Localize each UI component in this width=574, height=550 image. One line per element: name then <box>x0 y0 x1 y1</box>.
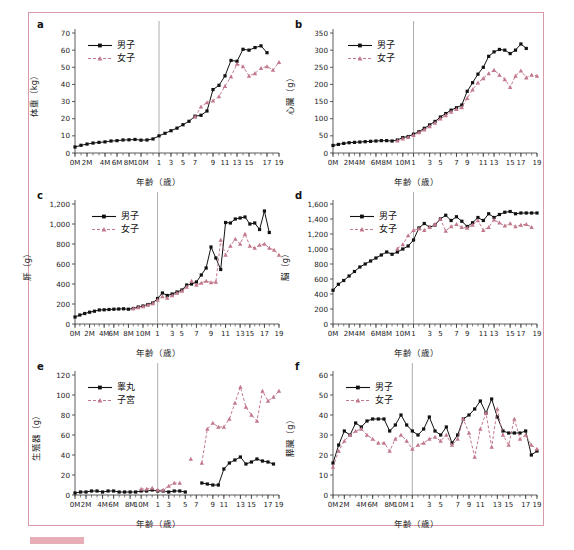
svg-text:10M: 10M <box>395 330 410 338</box>
svg-text:80: 80 <box>61 411 71 420</box>
svg-text:0M: 0M <box>328 159 339 167</box>
svg-text:3: 3 <box>166 501 170 509</box>
svg-text:5: 5 <box>181 159 185 167</box>
svg-text:800: 800 <box>314 260 328 269</box>
panel-c: c 肝（g） 02004006008001,0001,2000M2M4M6M8M… <box>29 188 287 359</box>
bottom-color-tag <box>30 537 84 544</box>
svg-text:60: 60 <box>61 46 71 55</box>
svg-text:15: 15 <box>506 330 515 338</box>
svg-text:10M: 10M <box>395 159 410 167</box>
panel-c-legend: 男子女子 <box>91 210 139 236</box>
svg-text:13: 13 <box>236 330 245 338</box>
legend-label: 女子 <box>117 53 135 64</box>
svg-text:6M: 6M <box>371 159 382 167</box>
legend-square-marker-icon <box>87 382 113 393</box>
legend-label: 子宮 <box>117 395 135 406</box>
panel-a: a 体重（kg） 0102030405060700M2M4M6M8M10M135… <box>29 17 287 188</box>
svg-text:7: 7 <box>194 330 198 338</box>
svg-text:3: 3 <box>427 330 431 338</box>
legend-label: 男子 <box>375 382 393 393</box>
legend-label: 男子 <box>121 211 139 222</box>
svg-text:9: 9 <box>211 501 215 509</box>
svg-text:2M: 2M <box>81 501 92 509</box>
panel-e-xlabel: 年齢（歳） <box>29 517 287 529</box>
svg-text:2M: 2M <box>344 159 355 167</box>
svg-text:40: 40 <box>61 451 71 460</box>
svg-text:10M: 10M <box>136 330 151 338</box>
svg-text:4M: 4M <box>356 501 367 509</box>
legend-entry: 女子 <box>91 223 139 236</box>
svg-text:350: 350 <box>314 29 328 38</box>
svg-text:1: 1 <box>155 330 159 338</box>
svg-text:0M: 0M <box>328 501 339 509</box>
svg-text:17: 17 <box>264 501 273 509</box>
svg-text:0: 0 <box>323 491 328 500</box>
legend-triangle-marker-icon <box>349 224 375 235</box>
svg-text:40: 40 <box>319 411 329 420</box>
legend-triangle-marker-icon <box>87 395 113 406</box>
panel-f: f 膵臓（g） 01020304050600M2M4M6M8M10M135791… <box>287 359 545 530</box>
legend-entry: 睾丸 <box>87 381 135 394</box>
svg-text:70: 70 <box>61 29 71 38</box>
svg-text:150: 150 <box>314 97 328 106</box>
legend-label: 女子 <box>379 224 397 235</box>
svg-text:19: 19 <box>275 330 284 338</box>
svg-text:200: 200 <box>314 305 328 314</box>
svg-text:30: 30 <box>61 97 71 106</box>
svg-text:5: 5 <box>438 330 442 338</box>
svg-text:7: 7 <box>454 159 458 167</box>
legend-entry: 女子 <box>349 223 397 236</box>
panel-e-plot: 0204060801001200M2M4M6M8M10M135791113151… <box>29 359 287 530</box>
svg-text:3: 3 <box>427 501 431 509</box>
svg-text:17: 17 <box>516 330 525 338</box>
svg-text:19: 19 <box>533 501 542 509</box>
svg-text:0M: 0M <box>70 159 81 167</box>
svg-text:200: 200 <box>56 300 70 309</box>
svg-text:10M: 10M <box>134 501 149 509</box>
svg-text:11: 11 <box>219 501 228 509</box>
svg-text:19: 19 <box>275 501 284 509</box>
svg-text:8M: 8M <box>381 159 392 167</box>
svg-text:19: 19 <box>275 159 284 167</box>
svg-text:4M: 4M <box>355 159 366 167</box>
svg-text:13: 13 <box>236 501 245 509</box>
panel-b-legend: 男子女子 <box>347 39 395 65</box>
svg-text:250: 250 <box>314 63 328 72</box>
svg-text:100: 100 <box>314 114 328 123</box>
svg-text:4M: 4M <box>355 330 366 338</box>
svg-text:11: 11 <box>479 330 488 338</box>
svg-text:20: 20 <box>319 451 329 460</box>
panel-f-xlabel: 年齢（歳） <box>287 517 545 529</box>
svg-text:20: 20 <box>61 114 71 123</box>
svg-text:50: 50 <box>61 63 71 72</box>
svg-text:0M: 0M <box>70 330 81 338</box>
svg-text:17: 17 <box>516 159 525 167</box>
svg-text:10: 10 <box>61 131 71 140</box>
svg-text:10: 10 <box>319 471 329 480</box>
svg-text:40: 40 <box>61 80 71 89</box>
panel-e-legend: 睾丸子宮 <box>87 381 135 407</box>
legend-square-marker-icon <box>347 40 373 51</box>
svg-text:1,200: 1,200 <box>307 230 328 239</box>
panel-b-plot: 0501001502002503003500M2M4M6M8M10M135791… <box>287 17 545 188</box>
legend-entry: 男子 <box>91 210 139 223</box>
legend-entry: 女子 <box>347 52 395 65</box>
svg-text:9: 9 <box>467 501 471 509</box>
legend-entry: 男子 <box>349 210 397 223</box>
panel-a-legend: 男子女子 <box>87 39 135 65</box>
panel-f-plot: 01020304050600M2M4M6M8M10M13579111315171… <box>287 359 545 530</box>
svg-text:1,000: 1,000 <box>307 245 328 254</box>
svg-text:400: 400 <box>314 290 328 299</box>
svg-text:0: 0 <box>65 320 70 329</box>
svg-text:4M: 4M <box>100 159 111 167</box>
panel-a-plot: 0102030405060700M2M4M6M8M10M135791113151… <box>29 17 287 188</box>
panel-d-plot: 02004006008001,0001,2001,4001,6000M2M4M6… <box>287 188 545 359</box>
panel-b: b 心臓（g） 0501001502002503003500M2M4M6M8M1… <box>287 17 545 188</box>
legend-label: 女子 <box>375 395 393 406</box>
svg-text:17: 17 <box>260 330 269 338</box>
svg-text:19: 19 <box>533 330 542 338</box>
svg-text:11: 11 <box>476 501 485 509</box>
svg-text:9: 9 <box>465 330 469 338</box>
svg-text:400: 400 <box>56 280 70 289</box>
panel-d-xlabel: 年齢（歳） <box>287 346 545 358</box>
